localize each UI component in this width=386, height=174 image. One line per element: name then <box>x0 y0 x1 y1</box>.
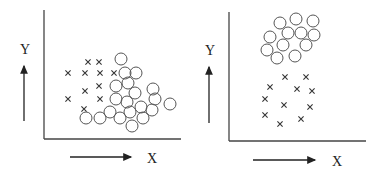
cross-marker <box>85 59 90 64</box>
cross-marker <box>298 116 303 121</box>
right-x-label: X <box>332 154 342 169</box>
cross-marker <box>262 112 267 117</box>
cross-marker <box>82 70 87 75</box>
circle-marker <box>94 112 106 124</box>
cross-marker <box>65 96 70 101</box>
circle-marker <box>126 120 138 132</box>
circle-marker <box>80 112 92 124</box>
circle-marker <box>277 39 289 51</box>
circle-marker <box>274 17 286 29</box>
cross-marker <box>111 70 116 75</box>
cross-marker <box>65 70 70 75</box>
circle-marker <box>261 44 273 56</box>
left-markers <box>65 53 176 132</box>
cross-marker <box>281 102 286 107</box>
right-markers <box>261 13 320 127</box>
circle-marker <box>307 15 319 27</box>
left-plot: Y X <box>20 10 181 166</box>
cross-marker <box>267 84 272 89</box>
circle-marker <box>135 101 147 113</box>
circle-marker <box>164 98 176 110</box>
circle-marker <box>282 27 294 39</box>
circle-marker <box>114 112 126 124</box>
cross-marker <box>81 106 86 111</box>
figure: Y X Y X <box>0 0 386 174</box>
cross-marker <box>294 86 299 91</box>
cross-marker <box>262 96 267 101</box>
circle-marker <box>300 39 312 51</box>
circle-marker <box>271 52 283 64</box>
circle-marker <box>290 13 302 25</box>
cross-marker <box>277 121 282 126</box>
cross-marker <box>96 59 101 64</box>
right-plot: Y X <box>205 12 366 169</box>
circle-marker <box>110 93 122 105</box>
circle-marker <box>295 27 307 39</box>
cross-marker <box>282 74 287 79</box>
circle-marker <box>137 112 149 124</box>
cross-marker <box>303 74 308 79</box>
circle-marker <box>130 67 142 79</box>
circle-marker <box>110 80 122 92</box>
circle-marker <box>115 53 127 65</box>
circle-marker <box>289 50 301 62</box>
right-y-label: Y <box>205 43 215 58</box>
cross-marker <box>96 83 101 88</box>
left-y-label: Y <box>20 42 30 57</box>
cross-marker <box>97 96 102 101</box>
cross-marker <box>82 88 87 93</box>
cross-marker <box>97 70 102 75</box>
cross-marker <box>309 88 314 93</box>
cross-marker <box>307 104 312 109</box>
left-x-label: X <box>147 151 157 166</box>
circle-marker <box>308 29 320 41</box>
circle-marker <box>264 31 276 43</box>
